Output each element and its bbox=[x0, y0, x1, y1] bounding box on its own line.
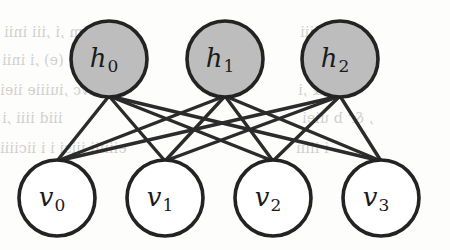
node-subscript-v1: 1 bbox=[162, 195, 173, 215]
node-h0[interactable]: h0 bbox=[71, 21, 147, 97]
node-v3[interactable]: v3 bbox=[343, 160, 419, 236]
node-v0[interactable]: v0 bbox=[19, 160, 95, 236]
node-v1[interactable]: v1 bbox=[127, 160, 203, 236]
node-subscript-v2: 2 bbox=[270, 195, 281, 215]
rbm-figure: niim ,i ,iii inii (e) ,i inii es savc ,i… bbox=[0, 0, 450, 250]
node-h1[interactable]: h1 bbox=[187, 21, 263, 97]
node-subscript-v3: 3 bbox=[378, 195, 389, 215]
node-h2[interactable]: h2 bbox=[302, 21, 378, 97]
node-v2[interactable]: v2 bbox=[235, 160, 311, 236]
edge-layer bbox=[57, 96, 381, 161]
node-subscript-h0: 0 bbox=[107, 56, 118, 76]
node-subscript-h1: 1 bbox=[223, 56, 234, 76]
rbm-graph: h0h1h2v0v1v2v3 bbox=[0, 0, 450, 250]
node-subscript-v0: 0 bbox=[54, 195, 65, 215]
edge-h2-v2 bbox=[273, 96, 340, 161]
node-subscript-h2: 2 bbox=[338, 56, 349, 76]
